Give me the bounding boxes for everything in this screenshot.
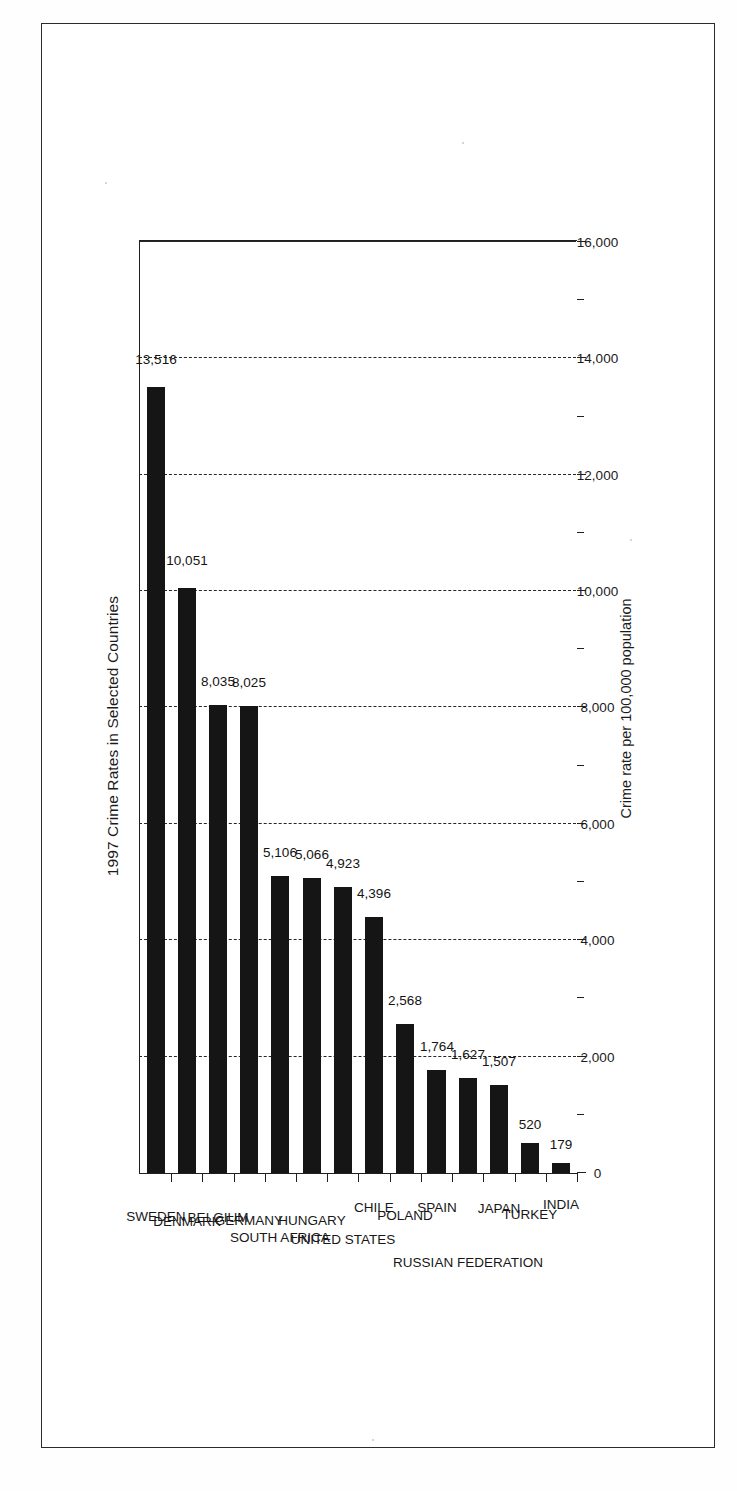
bar-india[interactable] <box>552 1162 570 1172</box>
bar-row: 1,764SPAIN <box>421 242 452 1173</box>
category-label-text: UNITED STATES <box>291 1231 396 1246</box>
bar-row: 8,025GERMANY <box>234 242 265 1173</box>
value-axis-tick-label: 16,000 <box>590 221 605 262</box>
category-label-spain: SPAIN <box>429 1187 444 1227</box>
bar-row: 520TURKEY <box>515 242 546 1173</box>
value-axis-tick-label-text: 4,000 <box>581 932 615 947</box>
bar-value-label-text: 4,396 <box>357 885 391 900</box>
value-axis-tick-label: 6,000 <box>590 806 605 840</box>
category-label-text: RUSSIAN FEDERATION <box>393 1254 543 1269</box>
figure-page: 1997 Crime Rates in Selected Countries 0… <box>0 0 737 1491</box>
value-axis-tick-label-text: 0 <box>594 1165 602 1180</box>
bar-value-label: 1,627 <box>460 1037 475 1071</box>
bar-value-label-text: 1,764 <box>420 1038 454 1053</box>
value-axis-minor-tick <box>577 764 584 765</box>
bar-sweden[interactable] <box>147 386 165 1172</box>
bar-row: 2,568POLAND <box>390 242 421 1173</box>
bar-row: 1,507JAPAN <box>483 242 514 1173</box>
bar-spain[interactable] <box>427 1070 445 1173</box>
bar-poland[interactable] <box>396 1023 414 1172</box>
page-border: 1997 Crime Rates in Selected Countries 0… <box>41 23 715 1448</box>
value-axis-minor-tick <box>577 415 584 416</box>
bar-value-label: 1,764 <box>429 1029 444 1063</box>
category-label-poland: POLAND <box>398 1187 413 1243</box>
value-axis-caption: Crime rate per 100,000 population <box>618 243 634 1174</box>
category-axis-tick <box>515 1173 516 1182</box>
value-axis-minor-tick <box>577 881 584 882</box>
category-label-turkey: TURKEY <box>523 1187 538 1242</box>
value-axis-tick-label-text: 2,000 <box>581 1049 615 1064</box>
category-axis-tick <box>234 1173 235 1182</box>
value-axis-minor-tick <box>577 299 584 300</box>
bar-germany[interactable] <box>240 706 258 1173</box>
bar-value-label-text: 1,627 <box>451 1046 485 1061</box>
bar-value-label-text: 10,051 <box>166 553 207 568</box>
bar-value-label-text: 8,025 <box>232 674 266 689</box>
category-axis-tick <box>296 1173 297 1182</box>
bar-value-label-text: 4,923 <box>326 855 360 870</box>
category-axis-tick <box>171 1173 172 1182</box>
bar-value-label: 1,507 <box>491 1044 506 1078</box>
bar-row: 179INDIA <box>546 242 577 1173</box>
category-label-russian-federation: RUSSIAN FEDERATION <box>460 1187 475 1337</box>
value-axis-minor-tick <box>577 997 584 998</box>
bar-row: 5,106SOUTH AFRICA <box>265 242 296 1173</box>
bar-row: 13,516SWEDEN <box>140 242 171 1173</box>
scan-speck <box>105 182 107 184</box>
bar-row: 1,627RUSSIAN FEDERATION <box>452 242 483 1173</box>
bar-value-label-text: 8,035 <box>201 674 235 689</box>
bar-value-label-text: 13,516 <box>135 351 176 366</box>
category-axis-tick <box>546 1173 547 1182</box>
bar-value-label: 8,035 <box>211 664 226 698</box>
category-axis-tick <box>390 1173 391 1182</box>
value-axis-tick <box>577 1172 586 1173</box>
category-label-united-states: UNITED STATES <box>335 1187 350 1292</box>
bar-chile[interactable] <box>365 917 383 1173</box>
scan-speck <box>462 142 464 144</box>
value-axis-tick-label: 10,000 <box>590 570 605 611</box>
bar-russian-federation[interactable] <box>459 1078 477 1173</box>
bar-turkey[interactable] <box>521 1142 539 1172</box>
category-axis-tick <box>577 1173 578 1182</box>
category-axis-tick <box>483 1173 484 1182</box>
category-axis-tick <box>265 1173 266 1182</box>
value-axis-tick-label-text: 6,000 <box>581 816 615 831</box>
value-axis-tick-label-text: 12,000 <box>577 467 618 482</box>
bar-value-label: 179 <box>554 1133 569 1156</box>
bar-denmark[interactable] <box>178 588 196 1173</box>
category-label-india: INDIA <box>554 1187 569 1223</box>
category-axis-tick <box>421 1173 422 1182</box>
bar-value-label: 5,066 <box>304 837 319 871</box>
value-axis-tick-label: 4,000 <box>590 923 605 957</box>
bar-south-africa[interactable] <box>271 875 289 1172</box>
value-axis-minor-tick <box>577 531 584 532</box>
bar-belgium[interactable] <box>209 705 227 1173</box>
bar-value-label: 520 <box>523 1113 538 1136</box>
bar-japan[interactable] <box>490 1085 508 1173</box>
value-axis-tick-label: 12,000 <box>590 454 605 495</box>
bar-value-label: 13,516 <box>148 338 163 379</box>
value-axis-tick-label: 2,000 <box>590 1039 605 1073</box>
scan-speck <box>372 1439 374 1441</box>
bar-united-states[interactable] <box>334 886 352 1172</box>
bar-row: 4,396CHILE <box>359 242 390 1173</box>
bar-value-label: 8,025 <box>242 665 257 699</box>
category-label-text: SPAIN <box>417 1199 457 1214</box>
bar-value-label-text: 2,568 <box>388 992 422 1007</box>
category-axis-tick <box>358 1173 359 1182</box>
category-axis-tick <box>327 1173 328 1182</box>
rotated-chart-stage: 1997 Crime Rates in Selected Countries 0… <box>98 206 658 1266</box>
bar-hungary[interactable] <box>303 878 321 1173</box>
chart-title: 1997 Crime Rates in Selected Countries <box>104 206 122 1266</box>
bar-value-label-text: 5,066 <box>295 846 329 861</box>
category-axis-tick <box>452 1173 453 1182</box>
value-axis-minor-tick <box>577 1113 584 1114</box>
bar-value-label-text: 520 <box>519 1116 542 1131</box>
bar-value-label-text: 5,106 <box>264 844 298 859</box>
bar-row: 10,051DENMARK <box>171 242 202 1173</box>
bar-value-label: 5,106 <box>273 835 288 869</box>
value-axis-tick-label: 14,000 <box>590 337 605 378</box>
bar-value-label: 10,051 <box>179 539 194 580</box>
bar-row: 4,923UNITED STATES <box>327 242 358 1173</box>
value-axis-tick-label-text: 14,000 <box>577 350 618 365</box>
